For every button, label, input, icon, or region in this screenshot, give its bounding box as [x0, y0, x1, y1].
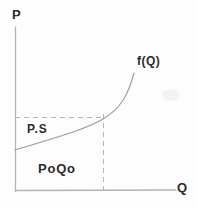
diagram-canvas: P Q f(Q) P.S PoQo [0, 0, 198, 208]
scan-smudge [162, 89, 180, 101]
q-axis-line [15, 190, 176, 191]
x-axis-label: Q [177, 180, 187, 195]
revenue-rectangle-label: PoQo [38, 161, 76, 176]
producer-surplus-label: P.S [27, 122, 48, 136]
diagram-plot [0, 0, 198, 208]
supply-curve [15, 73, 134, 150]
y-axis-label: P [12, 7, 21, 22]
curve-label: f(Q) [137, 54, 160, 68]
